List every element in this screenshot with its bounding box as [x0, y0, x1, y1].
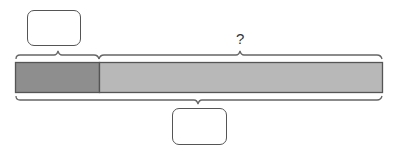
bar-left-part: [16, 63, 100, 93]
bar-right-part: [100, 63, 383, 93]
top-answer-box[interactable]: [27, 10, 81, 46]
bottom-answer-box[interactable]: [172, 108, 227, 145]
top-left-brace: [16, 51, 99, 59]
top-right-brace: [99, 51, 382, 59]
bottom-brace: [16, 96, 382, 104]
unknown-label: ?: [236, 31, 244, 46]
